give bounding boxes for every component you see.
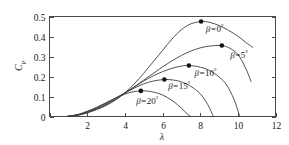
x-tick-label: 10 [234, 121, 244, 131]
x-tick-label: 12 [272, 121, 282, 131]
peak-marker-10deg [187, 63, 192, 68]
y-tick-label: 0.4 [34, 33, 46, 43]
x-axis-tick-labels: 24681012 [85, 121, 281, 131]
x-tick-label: 6 [161, 121, 166, 131]
peak-marker-5deg [220, 43, 225, 48]
annotation-10deg: β=10° [194, 67, 218, 78]
x-tick-label: 8 [198, 121, 203, 131]
y-axis-title: Cp [13, 60, 27, 71]
y-tick-label: 0 [41, 113, 46, 123]
x-tick-label: 4 [123, 121, 128, 131]
y-tick-label: 0.3 [34, 53, 46, 63]
y-axis-tick-labels: 00.10.20.30.40.5 [34, 13, 46, 123]
data-curves [66, 21, 252, 116]
x-tick-label: 2 [85, 121, 90, 131]
y-axis-title-sub: p [19, 60, 27, 64]
peak-marker-20deg [139, 89, 144, 94]
y-tick-label: 0.2 [34, 73, 46, 83]
peak-marker-15deg [162, 77, 167, 82]
y-tick-label: 0.5 [34, 13, 46, 23]
annotation-20deg: β=20° [135, 95, 159, 106]
peak-marker-0deg [199, 19, 204, 24]
annotation-5deg: β=5° [229, 49, 248, 60]
chart-figure: 24681012 00.10.20.30.40.5 β=0°β=5°β=10°β… [0, 0, 289, 145]
y-axis-ticks [50, 18, 276, 118]
y-tick-label: 0.1 [34, 93, 46, 103]
annotation-15deg: β=15° [167, 80, 191, 91]
cp-lambda-chart: 24681012 00.10.20.30.40.5 β=0°β=5°β=10°β… [0, 0, 289, 145]
x-axis-title: λ [159, 131, 165, 142]
annotation-0deg: β=0° [205, 23, 224, 34]
svg-text:Cp: Cp [13, 60, 27, 71]
